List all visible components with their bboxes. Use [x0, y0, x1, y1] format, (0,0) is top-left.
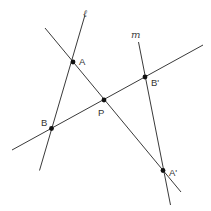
- point-p: [102, 98, 107, 103]
- point-b: [49, 126, 54, 131]
- label-line-m: m: [131, 29, 140, 40]
- point-a-prime: [161, 168, 166, 173]
- label-line-l: ℓ: [83, 8, 87, 19]
- label-a: A: [79, 56, 86, 67]
- line-b-b-prime: [12, 45, 203, 150]
- label-p: P: [98, 107, 104, 118]
- diagram-canvas: A B P B' A' ℓ m: [0, 0, 211, 211]
- point-b-prime: [143, 75, 148, 80]
- point-a: [71, 60, 76, 65]
- label-a-prime: A': [169, 167, 177, 178]
- line-m: [139, 42, 171, 205]
- line-a-a-prime: [45, 28, 181, 192]
- line-l: [40, 15, 86, 171]
- label-b: B: [41, 117, 47, 128]
- label-b-prime: B': [151, 77, 159, 88]
